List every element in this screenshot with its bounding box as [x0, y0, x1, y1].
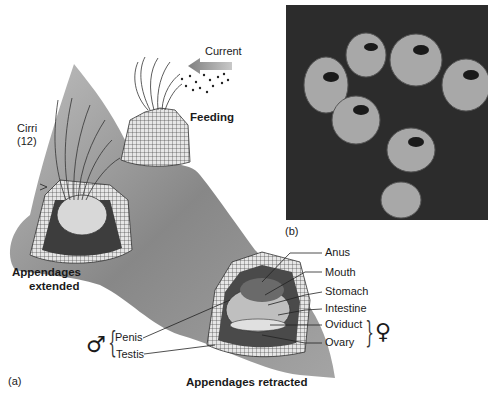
female-symbol-icon: ♀ — [375, 321, 391, 343]
label-intestine: Intestine — [325, 302, 367, 314]
label-stomach: Stomach — [325, 285, 368, 297]
male-symbol-icon: ♂ — [86, 334, 106, 356]
feeding-barnacle — [121, 57, 190, 166]
cirri-label: Cirri — [17, 122, 37, 134]
food-particles — [181, 73, 229, 93]
current-arrow — [188, 58, 232, 74]
label-penis: Penis — [115, 331, 143, 343]
barnacle-photo — [286, 5, 488, 220]
label-testis: Testis — [116, 348, 144, 360]
label-oviduct: Oviduct — [325, 318, 362, 330]
feeding-label: Feeding — [190, 111, 234, 124]
extended-label-line2: extended — [29, 280, 80, 293]
current-label: Current — [205, 45, 242, 57]
panel-a-label: (a) — [8, 375, 21, 387]
extended-label-line1: Appendages — [12, 266, 81, 279]
panel-b-label: (b) — [285, 225, 298, 237]
female-brace: } — [365, 317, 374, 347]
cirri-count-label: (12) — [17, 135, 37, 147]
label-ovary: Ovary — [325, 336, 354, 348]
label-mouth: Mouth — [325, 266, 356, 278]
label-anus: Anus — [325, 246, 350, 258]
retracted-label: Appendages retracted — [186, 376, 307, 389]
